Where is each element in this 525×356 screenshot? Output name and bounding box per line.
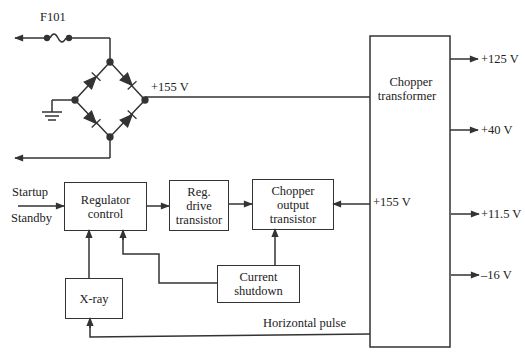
output-11-5v: +11.5 V (481, 207, 521, 221)
regulator-control-block: Regulatorcontrol (64, 182, 147, 231)
block-label: transistor (270, 212, 317, 226)
horizontal-pulse-label: Horizontal pulse (263, 316, 346, 330)
fuse-label: F101 (40, 10, 66, 24)
block-label: Chopper (382, 75, 440, 89)
output-40v: +40 V (481, 123, 512, 137)
block-label: output (270, 198, 317, 212)
block-label: transistor (176, 213, 223, 227)
reg-drive-transistor-block: Reg.drivetransistor (169, 180, 229, 231)
block-label: shutdown (234, 284, 283, 298)
block-label: X-ray (79, 292, 108, 306)
block-label: Reg. (176, 185, 223, 199)
standby-label: Standby (11, 211, 52, 225)
fuse-icon (50, 34, 66, 42)
block-label: Regulator (81, 193, 130, 207)
block-label: drive (176, 199, 223, 213)
block-label: control (81, 207, 130, 221)
block-label: Chopper (270, 184, 317, 198)
startup-label: Startup (12, 185, 48, 199)
chopper-transformer-label: Chopper transformer (382, 75, 440, 103)
xray-block: X-ray (65, 278, 123, 319)
chopper-output-transistor-block: Chopperoutputtransistor (252, 179, 334, 230)
transformer-input-label: +155 V (373, 195, 411, 209)
current-shutdown-block: Currentshutdown (217, 265, 300, 303)
bridge-output-label: +155 V (151, 80, 189, 94)
bridge-rectifier (75, 62, 145, 137)
output-minus-16v: –16 V (481, 268, 512, 282)
output-125v: +125 V (481, 52, 519, 66)
block-label: Current (234, 270, 283, 284)
block-label: transformer (374, 89, 440, 103)
